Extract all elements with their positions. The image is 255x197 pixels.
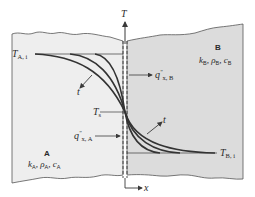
x-axis-label: x [144,183,148,193]
ta-initial-label: TA, i [12,49,27,61]
medium-b-letter: B [215,44,221,52]
x-axis [125,178,142,188]
flux-a-label: q"x, A [74,130,92,143]
medium-a-properties: kA, ρA, cA [28,160,60,171]
ts-label: Ts [93,107,101,119]
t-axis-label: T [121,9,127,19]
heat-transfer-diagram: T x TA, i TB, i Ts t t q"x, A q"x, B A k… [0,0,255,197]
medium-a-letter: A [44,150,50,158]
medium-b-properties: kB, ρB, cB [199,56,231,67]
time-label-a: t [77,87,80,97]
tb-initial-label: TB, i [220,148,235,160]
flux-b-label: q"x, B [155,69,173,82]
time-label-b: t [163,115,166,125]
